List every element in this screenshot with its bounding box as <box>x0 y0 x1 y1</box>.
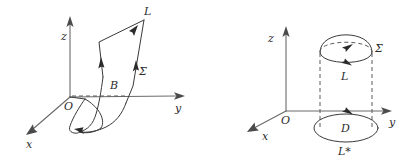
figure-root: z y x O L Σ B <box>0 0 408 160</box>
right-diagram: z y x O Σ L D L* <box>0 0 408 160</box>
right-axis-label-x: x <box>262 130 269 143</box>
cap-orientation-arrow <box>342 44 353 52</box>
right-surface-label-sigma: Σ <box>374 42 383 55</box>
right-upper-curve-label-L: L <box>340 70 348 83</box>
right-axis-label-z: z <box>267 32 274 45</box>
right-axis-label-y: y <box>388 116 396 129</box>
right-z-axis <box>282 26 289 111</box>
right-origin-label: O <box>281 114 290 127</box>
right-disk-label-D: D <box>340 122 350 135</box>
right-lower-curve-label-Lstar: L* <box>337 145 351 158</box>
right-y-axis <box>286 107 392 114</box>
